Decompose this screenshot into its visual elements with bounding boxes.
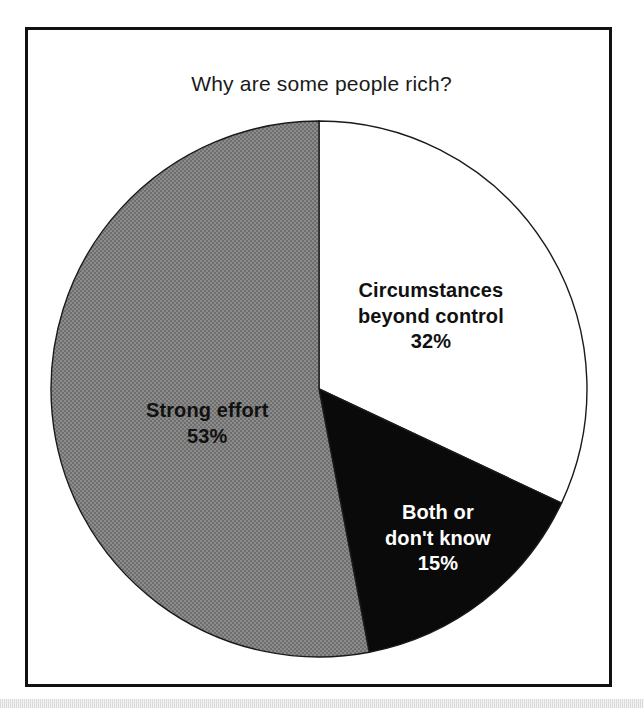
scan-bottom-band bbox=[0, 699, 644, 708]
pie-label-value: 53% bbox=[146, 424, 268, 450]
pie-label-line-2: beyond control bbox=[358, 305, 504, 327]
pie-label-circumstances-beyond-control: Circumstances beyond control 32% bbox=[358, 278, 504, 355]
pie-label-line-1: Circumstances bbox=[359, 279, 504, 301]
pie-label-strong-effort: Strong effort 53% bbox=[146, 398, 268, 449]
pie-chart bbox=[50, 120, 588, 658]
pie-label-line-2: don't know bbox=[385, 527, 491, 549]
pie-label-both-or-dont-know: Both or don't know 15% bbox=[385, 500, 491, 577]
pie-label-value: 32% bbox=[358, 329, 504, 355]
pie-chart-svg bbox=[50, 120, 588, 658]
figure-frame: Why are some people rich? Cir bbox=[25, 27, 612, 687]
scanned-page: Why are some people rich? Cir bbox=[0, 0, 644, 708]
pie-label-line-1: Strong effort bbox=[146, 399, 268, 421]
pie-label-value: 15% bbox=[385, 551, 491, 577]
page-title: Why are some people rich? bbox=[28, 72, 615, 96]
pie-label-line-1: Both or bbox=[402, 501, 474, 523]
